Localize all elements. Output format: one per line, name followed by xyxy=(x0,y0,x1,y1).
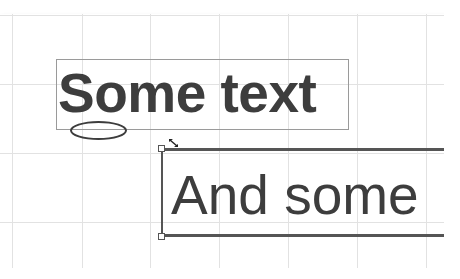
shape-text-and-some: And some xyxy=(171,160,419,230)
selection-border-bottom xyxy=(163,234,444,237)
grid-line xyxy=(0,15,444,16)
resize-handle-top-left[interactable] xyxy=(158,145,165,152)
resize-handle-bottom-left[interactable] xyxy=(158,233,165,240)
selection-border-top xyxy=(163,148,444,151)
grid-line xyxy=(82,14,83,268)
resize-diagonal-cursor-icon xyxy=(169,139,178,147)
grid-line xyxy=(12,14,13,268)
shape-text-some-text: Some text xyxy=(58,58,316,128)
grid-line xyxy=(150,14,151,268)
selection-border-left xyxy=(161,150,163,235)
ellipse-shape[interactable] xyxy=(70,121,127,140)
diagram-viewport: Some text And some xyxy=(0,0,444,268)
